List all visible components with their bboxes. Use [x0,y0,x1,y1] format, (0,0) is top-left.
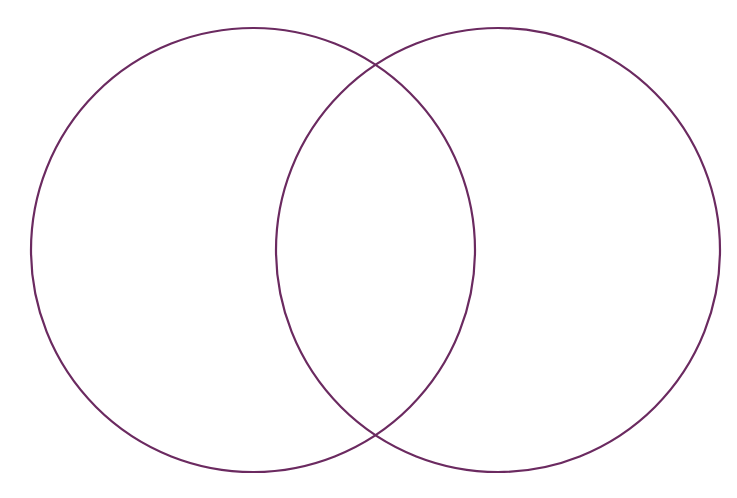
venn-diagram [0,0,737,498]
venn-circle-right [276,28,720,472]
venn-circle-left [31,28,475,472]
